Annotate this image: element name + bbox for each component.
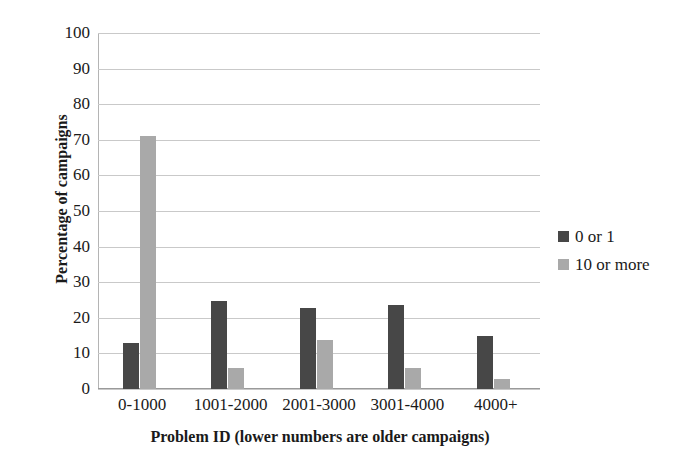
bar <box>317 340 333 389</box>
y-axis-tick-label: 20 <box>34 309 90 326</box>
x-axis-tick-labels: 0-10001001-20002001-30003001-40004000+ <box>98 394 540 420</box>
y-axis-tick-label: 50 <box>34 202 90 219</box>
bar-group <box>363 33 451 389</box>
x-axis-tick-label: 4000+ <box>452 394 540 416</box>
y-axis-tick-label: 10 <box>34 344 90 361</box>
y-axis-tick-label: 60 <box>34 166 90 183</box>
legend-swatch-icon <box>558 231 569 242</box>
gridline <box>98 389 540 390</box>
x-axis-tick-label: 1001-2000 <box>187 394 275 416</box>
bar-group <box>452 33 540 389</box>
bar <box>405 368 421 389</box>
y-axis-tick-label: 80 <box>34 95 90 112</box>
chart-legend: 0 or 110 or more <box>558 222 698 278</box>
y-axis-tick-label: 0 <box>34 380 90 397</box>
bar <box>228 368 244 389</box>
legend-label: 0 or 1 <box>575 227 615 246</box>
y-axis-tick-label: 90 <box>34 60 90 77</box>
bar <box>477 336 493 389</box>
bar-chart: Percentage of campaigns 0102030405060708… <box>0 0 698 470</box>
legend-swatch-icon <box>558 259 569 270</box>
bar <box>140 136 156 389</box>
y-axis-tick-label: 30 <box>34 273 90 290</box>
x-axis-tick-label: 0-1000 <box>98 394 186 416</box>
plot-area <box>98 33 540 389</box>
legend-item: 0 or 1 <box>558 222 698 250</box>
y-axis-tick-label: 70 <box>34 131 90 148</box>
bar-group <box>186 33 274 389</box>
bar <box>211 301 227 389</box>
legend-label: 10 or more <box>575 255 650 274</box>
legend-item: 10 or more <box>558 250 698 278</box>
bar <box>300 308 316 389</box>
y-axis-tick-label: 40 <box>34 238 90 255</box>
x-axis-title: Problem ID (lower numbers are older camp… <box>58 428 582 446</box>
y-axis-tick-labels: 0102030405060708090100 <box>34 0 90 470</box>
x-axis-tick-label: 2001-3000 <box>275 394 363 416</box>
bar-group <box>98 33 186 389</box>
x-axis-tick-label: 3001-4000 <box>363 394 451 416</box>
bar <box>494 379 510 389</box>
bar-group <box>275 33 363 389</box>
y-axis-tick-label: 100 <box>34 24 90 41</box>
bar <box>123 343 139 389</box>
bar <box>388 305 404 389</box>
